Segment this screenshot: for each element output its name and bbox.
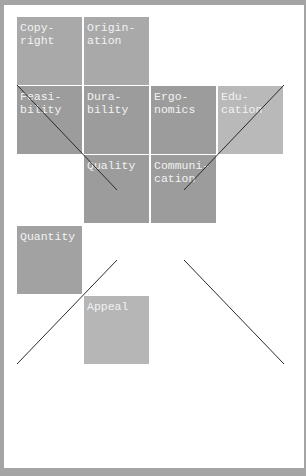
diagonal-line-1 — [184, 85, 284, 190]
diagonal-line-3 — [184, 260, 284, 364]
diagonal-lines — [0, 0, 306, 476]
diagonal-line-2 — [17, 260, 117, 364]
diagonal-line-0 — [17, 85, 117, 190]
